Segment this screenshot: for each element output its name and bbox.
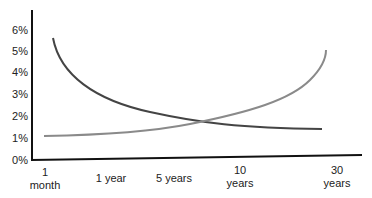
x-axis-line <box>31 155 362 160</box>
x-tick-label: 10 years <box>227 164 254 190</box>
x-tick-label: 1 month <box>30 166 61 192</box>
x-tick-line1: 1 <box>30 166 61 179</box>
x-tick-line2: years <box>227 177 254 190</box>
rising-curve <box>44 50 326 136</box>
x-tick-label: 1 year <box>96 172 127 185</box>
y-tick-label: 4% <box>2 67 28 78</box>
x-tick-label: 5 years <box>156 172 192 185</box>
y-tick-label: 0% <box>2 155 28 166</box>
yield-curve-chart: 0% 1% 2% 3% 4% 5% 6% 1 month 1 year 5 ye… <box>0 0 372 198</box>
x-tick-line2: years <box>324 177 351 190</box>
y-tick-label: 1% <box>2 133 28 144</box>
x-tick-line1: 1 year <box>96 172 127 185</box>
x-tick-label: 30 years <box>324 164 351 190</box>
y-tick-label: 6% <box>2 25 28 36</box>
x-tick-line1: 10 <box>227 164 254 177</box>
falling-curve <box>53 38 322 129</box>
x-tick-line1: 5 years <box>156 172 192 185</box>
y-tick-label: 3% <box>2 89 28 100</box>
y-tick-label: 2% <box>2 111 28 122</box>
x-tick-line2: month <box>30 179 61 192</box>
x-tick-line1: 30 <box>324 164 351 177</box>
y-tick-label: 5% <box>2 46 28 57</box>
